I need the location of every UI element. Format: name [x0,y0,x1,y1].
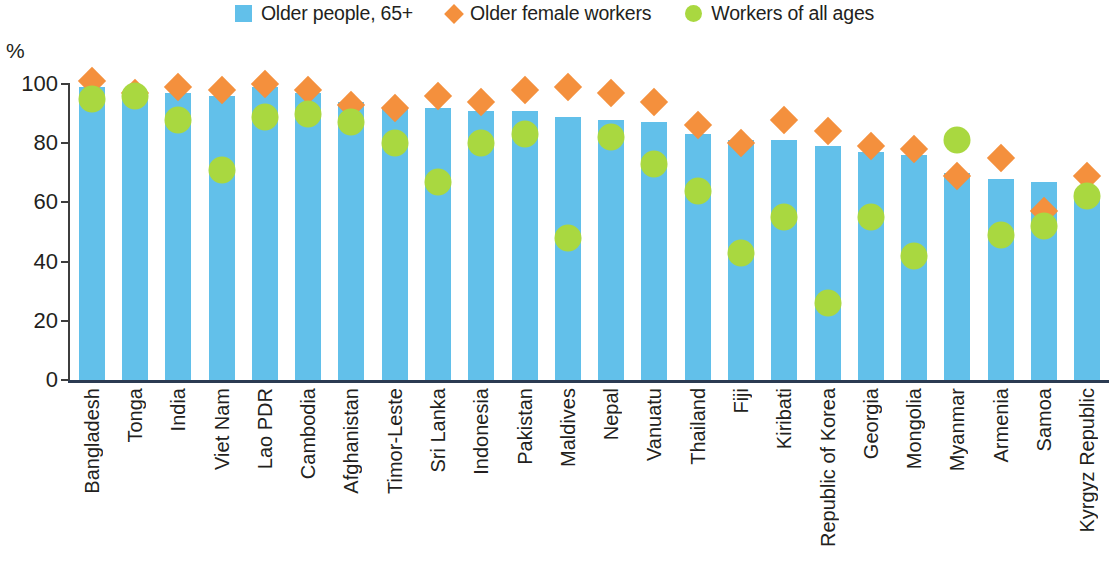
bar-older-people [858,152,884,380]
bar-older-people [122,93,148,380]
chart-column [200,0,243,380]
chart-column [286,0,329,380]
marker-older-female-workers [597,79,625,107]
x-axis-label: Samoa [1034,388,1054,451]
chart-column [70,0,113,380]
x-axis-label: Bangladesh [82,388,102,494]
chart-column [113,0,156,380]
x-axis-label: Cambodia [298,388,318,479]
chart-column [936,0,979,380]
bar-older-people [598,120,624,380]
plot-area [70,0,1109,380]
chart-column [157,0,200,380]
bar-older-people [295,93,321,380]
marker-workers-all-ages [424,168,451,195]
x-axis-label: Vanuatu [644,388,664,461]
bar-older-people [79,87,105,380]
marker-workers-all-ages [468,130,495,157]
marker-workers-all-ages [251,103,278,130]
bar-older-people [338,102,364,380]
x-axis-label: Afghanistan [341,388,361,494]
x-axis-label: Indonesia [471,388,491,475]
chart-column [763,0,806,380]
chart-column [676,0,719,380]
marker-workers-all-ages [987,221,1014,248]
chart-root: Older people, 65+ Older female workers W… [0,0,1109,576]
marker-workers-all-ages [165,106,192,133]
y-axis-unit-label: % [6,40,25,61]
marker-older-female-workers [510,76,538,104]
chart-column [460,0,503,380]
chart-column [503,0,546,380]
marker-workers-all-ages [598,124,625,151]
marker-workers-all-ages [857,204,884,231]
marker-workers-all-ages [295,100,322,127]
x-axis-label: Kiribati [774,388,794,449]
y-axis-tick-label: 20 [8,310,58,332]
x-axis-label: Mongolia [904,388,924,469]
x-axis-label: Tonga [125,388,145,443]
marker-workers-all-ages [1031,213,1058,240]
marker-workers-all-ages [381,130,408,157]
chart-column [330,0,373,380]
x-axis-label: Thailand [688,388,708,465]
chart-column [633,0,676,380]
x-axis-label: Pakistan [515,388,535,465]
x-axis-label: Maldives [558,388,578,467]
marker-workers-all-ages [338,109,365,136]
bar-older-people [815,146,841,380]
marker-older-female-workers [554,73,582,101]
y-axis-tick-label: 40 [8,251,58,273]
bar-older-people [988,179,1014,380]
bar-older-people [1074,194,1100,380]
y-axis-tick-label: 60 [8,191,58,213]
x-axis-label: Fiji [731,388,751,414]
y-axis-tick-label: 80 [8,132,58,154]
bar-older-people [425,108,451,380]
x-axis-label: Kyrgyz Republic [1077,388,1097,533]
chart-column [416,0,459,380]
marker-older-female-workers [424,82,452,110]
marker-older-female-workers [640,88,668,116]
x-axis-label: Georgia [861,388,881,459]
marker-workers-all-ages [1074,183,1101,210]
bar-older-people [685,134,711,380]
chart-column [243,0,286,380]
chart-column [979,0,1022,380]
chart-column [1066,0,1109,380]
bar-older-people [944,173,970,380]
marker-workers-all-ages [554,224,581,251]
marker-workers-all-ages [814,290,841,317]
chart-column [1022,0,1065,380]
marker-older-female-workers [813,117,841,145]
chart-column [546,0,589,380]
x-axis-label: Republic of Korea [818,388,838,547]
bar-older-people [165,93,191,380]
x-axis-label: India [168,388,188,431]
x-axis-labels: BangladeshTongaIndiaViet NamLao PDRCambo… [70,388,1109,576]
x-axis-label: Timor-Leste [385,388,405,494]
chart-column [806,0,849,380]
x-axis-label: Armenia [991,388,1011,462]
x-axis-label: Myanmar [947,388,967,471]
chart-column [893,0,936,380]
marker-older-female-workers [770,105,798,133]
marker-workers-all-ages [78,85,105,112]
chart-column [719,0,762,380]
marker-workers-all-ages [121,82,148,109]
marker-workers-all-ages [641,150,668,177]
x-axis-baseline [68,380,1109,383]
x-axis-label: Nepal [601,388,621,440]
x-axis-label: Viet Nam [212,388,232,470]
chart-column [373,0,416,380]
marker-workers-all-ages [684,177,711,204]
marker-workers-all-ages [771,204,798,231]
y-axis-tick-label: 0 [8,369,58,391]
x-axis-label: Lao PDR [255,388,275,469]
chart-column [849,0,892,380]
bar-older-people [512,111,538,380]
marker-workers-all-ages [728,239,755,266]
x-axis-label: Sri Lanka [428,388,448,473]
bar-older-people [209,96,235,380]
marker-older-female-workers [987,144,1015,172]
